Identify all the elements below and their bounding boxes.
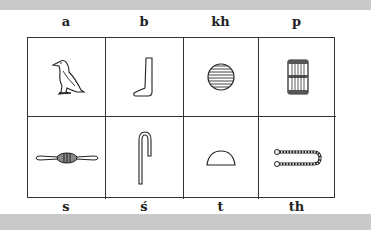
cell-p bbox=[259, 38, 336, 117]
bread-loaf-icon bbox=[205, 148, 237, 168]
bottom-bar bbox=[0, 214, 371, 230]
label-b: b bbox=[105, 14, 183, 29]
label-s: s bbox=[27, 199, 105, 214]
label-kh: kh bbox=[183, 14, 258, 29]
stool-icon bbox=[285, 57, 311, 97]
label-th: th bbox=[258, 199, 335, 214]
bolt-of-cloth-icon bbox=[34, 150, 100, 166]
top-bar bbox=[0, 0, 371, 10]
hieroglyph-table bbox=[27, 37, 335, 198]
label-sh: ś bbox=[105, 199, 183, 214]
folded-cloth-icon bbox=[135, 128, 155, 188]
cell-s bbox=[28, 117, 106, 199]
cell-kh bbox=[184, 38, 259, 117]
placenta-icon bbox=[205, 61, 237, 93]
vulture-icon bbox=[47, 56, 87, 98]
cell-t bbox=[184, 117, 259, 199]
label-p: p bbox=[258, 14, 335, 29]
foot-icon bbox=[130, 54, 160, 100]
cell-th bbox=[259, 117, 336, 199]
cell-a bbox=[28, 38, 106, 117]
tethering-rope-icon bbox=[272, 147, 324, 169]
cell-sh bbox=[106, 117, 184, 199]
cell-b bbox=[106, 38, 184, 117]
label-a: a bbox=[27, 14, 105, 29]
label-t: t bbox=[183, 199, 258, 214]
